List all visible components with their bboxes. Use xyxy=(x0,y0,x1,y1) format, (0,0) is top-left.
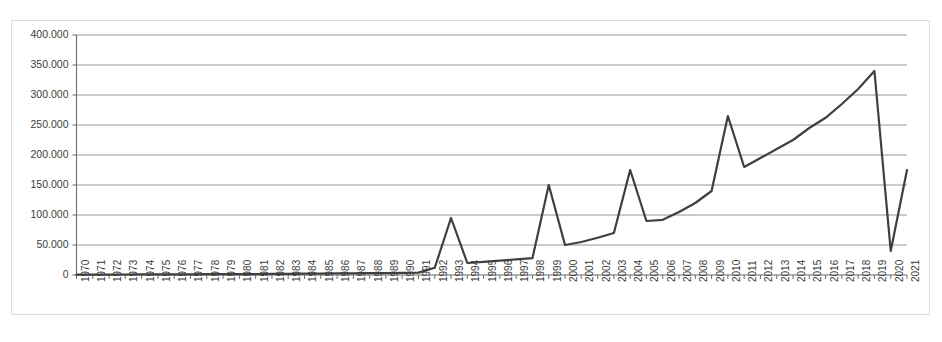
x-tick-label: 1976 xyxy=(178,260,188,282)
x-tick-label: 2002 xyxy=(602,260,612,282)
x-tick-label: 2012 xyxy=(764,260,774,282)
x-tick-label: 2014 xyxy=(797,260,807,282)
x-tick-label: 1989 xyxy=(390,260,400,282)
x-tick-label: 2015 xyxy=(813,260,823,282)
x-tick-label: 1974 xyxy=(146,260,156,282)
x-tick-label: 1988 xyxy=(374,260,384,282)
x-tick-label: 1996 xyxy=(504,260,514,282)
x-tick-label: 1986 xyxy=(341,260,351,282)
x-tick-label: 1991 xyxy=(422,260,432,282)
x-tick-label: 2005 xyxy=(650,260,660,282)
x-tick-label: 1983 xyxy=(292,260,302,282)
x-tick-label: 1995 xyxy=(488,260,498,282)
x-tick-label: 1984 xyxy=(308,260,318,282)
x-tick-label: 2010 xyxy=(732,260,742,282)
y-tick-label: 0 xyxy=(13,269,69,280)
x-tick-label: 2007 xyxy=(683,260,693,282)
x-tick-label: 2006 xyxy=(667,260,677,282)
data-line xyxy=(77,71,908,275)
x-tick-label: 1972 xyxy=(113,260,123,282)
x-tick-label: 1973 xyxy=(129,260,139,282)
x-tick-label: 2021 xyxy=(911,260,921,282)
x-tick-label: 1982 xyxy=(276,260,286,282)
x-tick-label: 2013 xyxy=(781,260,791,282)
y-tick-label: 400.000 xyxy=(13,29,69,40)
x-tick-label: 1977 xyxy=(194,260,204,282)
y-tick-label: 150.000 xyxy=(13,179,69,190)
x-tick-label: 1993 xyxy=(455,260,465,282)
x-tick-label: 1997 xyxy=(520,260,530,282)
x-tick-label: 2008 xyxy=(699,260,709,282)
y-tick-label: 100.000 xyxy=(13,209,69,220)
x-tick-label: 1975 xyxy=(162,260,172,282)
x-tick-label: 1971 xyxy=(97,260,107,282)
x-tick-label: 2017 xyxy=(846,260,856,282)
x-tick-label: 2003 xyxy=(618,260,628,282)
y-tick-label: 50.000 xyxy=(13,239,69,250)
x-tick-label: 1987 xyxy=(357,260,367,282)
x-tick-label: 1990 xyxy=(406,260,416,282)
gridlines-group xyxy=(77,35,908,245)
chart-figure: 400.000350.000300.000250.000200.000150.0… xyxy=(0,0,942,342)
x-tick-label: 2020 xyxy=(895,260,905,282)
x-tick-label: 2011 xyxy=(748,260,758,282)
x-tick-label: 1980 xyxy=(243,260,253,282)
y-axis-group xyxy=(73,35,77,275)
x-tick-label: 1998 xyxy=(536,260,546,282)
x-tick-label: 2018 xyxy=(862,260,872,282)
plot-area: 400.000350.000300.000250.000200.000150.0… xyxy=(0,0,942,342)
x-tick-label: 1992 xyxy=(439,260,449,282)
y-tick-label: 250.000 xyxy=(13,119,69,130)
x-tick-label: 1999 xyxy=(553,260,563,282)
x-tick-label: 2016 xyxy=(830,260,840,282)
x-tick-label: 1978 xyxy=(211,260,221,282)
x-tick-label: 2004 xyxy=(634,260,644,282)
x-tick-label: 1981 xyxy=(260,260,270,282)
y-tick-label: 200.000 xyxy=(13,149,69,160)
x-tick-label: 1970 xyxy=(81,260,91,282)
x-tick-label: 2000 xyxy=(569,260,579,282)
x-tick-label: 1994 xyxy=(471,260,481,282)
y-tick-label: 350.000 xyxy=(13,59,69,70)
data-series-group xyxy=(77,71,908,275)
line-chart-svg xyxy=(0,0,942,342)
x-tick-label: 1979 xyxy=(227,260,237,282)
x-tick-label: 2019 xyxy=(878,260,888,282)
x-tick-label: 2009 xyxy=(716,260,726,282)
x-tick-label: 2001 xyxy=(585,260,595,282)
y-tick-label: 300.000 xyxy=(13,89,69,100)
x-tick-label: 1985 xyxy=(325,260,335,282)
